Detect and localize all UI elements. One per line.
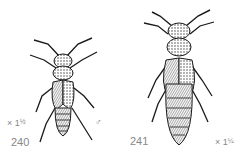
figure-number-240: 240	[11, 137, 29, 148]
figure-number-241: 241	[130, 136, 148, 147]
sex-symbol-male: ♂	[95, 118, 102, 127]
beetle-240-icon	[30, 38, 97, 142]
beetle-illustrations	[0, 0, 246, 154]
scale-label-240: × 1½	[7, 118, 26, 128]
scale-label-241: × 1¼	[215, 137, 234, 147]
beetle-241-icon	[144, 10, 214, 145]
